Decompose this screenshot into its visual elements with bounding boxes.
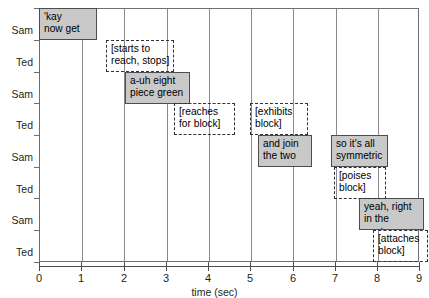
event-box-speech: so it's all symmetric bbox=[331, 135, 388, 167]
event-box-speech: 'kay now get bbox=[39, 8, 97, 40]
x-axis-line bbox=[39, 266, 420, 267]
x-axis-tick bbox=[166, 262, 167, 271]
x-axis-tick-label: 3 bbox=[155, 272, 177, 284]
gridline-1s bbox=[82, 9, 83, 261]
x-axis-tick bbox=[377, 262, 378, 271]
event-box-action: [attaches block] bbox=[373, 230, 428, 262]
row-label-sam-3: Sam bbox=[0, 152, 33, 163]
x-axis-tick-label: 7 bbox=[324, 272, 346, 284]
x-axis-tick-label: 4 bbox=[197, 272, 219, 284]
event-box-action: [starts to reach, stops] bbox=[106, 40, 174, 72]
row-label-sam-1: Sam bbox=[0, 25, 33, 36]
x-axis-tick bbox=[81, 262, 82, 271]
x-axis-tick bbox=[335, 262, 336, 271]
event-box-action: [poises block] bbox=[334, 167, 386, 199]
row-label-ted-4: Ted bbox=[0, 247, 33, 258]
row-label-sam-4: Sam bbox=[0, 215, 33, 226]
event-box-action: [exhibits block] bbox=[250, 103, 308, 135]
x-axis-tick bbox=[208, 262, 209, 271]
x-axis-tick-label: 2 bbox=[113, 272, 135, 284]
x-axis-tick bbox=[250, 262, 251, 271]
gridline-5s bbox=[251, 9, 252, 261]
event-box-action: [reaches for block] bbox=[174, 103, 235, 135]
x-axis-tick-label: 9 bbox=[408, 272, 429, 284]
row-label-ted-3: Ted bbox=[0, 184, 33, 195]
x-axis-tick bbox=[124, 262, 125, 271]
x-axis-tick-label: 1 bbox=[70, 272, 92, 284]
x-axis-tick-label: 5 bbox=[239, 272, 261, 284]
x-axis-title: time (sec) bbox=[0, 286, 429, 298]
event-box-speech: a-uh eight piece green bbox=[125, 72, 190, 104]
row-label-ted-1: Ted bbox=[0, 57, 33, 68]
row-label-ted-2: Ted bbox=[0, 120, 33, 131]
gridline-4s bbox=[209, 9, 210, 261]
x-axis-tick bbox=[293, 262, 294, 271]
x-axis-tick bbox=[419, 262, 420, 271]
event-box-speech: yeah, right in the center bbox=[359, 198, 424, 230]
event-box-speech: and join the two bbox=[258, 135, 312, 167]
x-axis-tick-label: 8 bbox=[366, 272, 388, 284]
x-axis-tick-label: 6 bbox=[282, 272, 304, 284]
x-axis-tick bbox=[39, 262, 40, 271]
timeline-chart: Sam Ted Sam Ted Sam Ted Sam Ted 'kay now… bbox=[0, 0, 429, 298]
row-label-sam-2: Sam bbox=[0, 89, 33, 100]
x-axis-tick-label: 0 bbox=[28, 272, 50, 284]
